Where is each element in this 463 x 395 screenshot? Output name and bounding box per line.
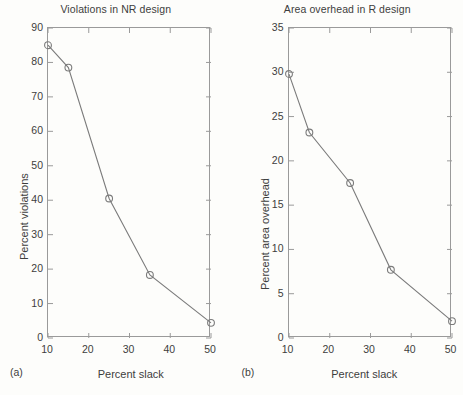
y-tick-label: 60 — [11, 124, 43, 136]
data-point-marker — [208, 319, 215, 326]
y-tick-label: 30 — [11, 228, 43, 240]
data-point-marker — [285, 71, 292, 78]
figure-container: Violations in NR design Percent violatio… — [0, 0, 463, 395]
x-tick-label: 10 — [41, 343, 53, 355]
y-tick-label: 5 — [252, 287, 284, 299]
chart-title-b: Area overhead in R design — [232, 3, 463, 15]
y-tick-label: 35 — [252, 21, 284, 33]
chart-panel-a: Violations in NR design Percent violatio… — [0, 0, 232, 395]
y-axis-label-a: Percent violations — [18, 173, 30, 260]
x-axis-label-b: Percent slack — [232, 368, 463, 380]
y-tick-label: 80 — [11, 55, 43, 67]
y-tick-label: 20 — [252, 154, 284, 166]
x-tick-label: 30 — [123, 343, 135, 355]
plot-svg-b — [289, 28, 452, 338]
plot-area-b — [288, 27, 451, 337]
y-tick-label: 15 — [252, 198, 284, 210]
x-tick-label: 20 — [322, 343, 334, 355]
y-tick-label: 90 — [11, 21, 43, 33]
y-tick-label: 70 — [11, 90, 43, 102]
y-tick-label: 0 — [11, 331, 43, 343]
x-tick-label: 40 — [404, 343, 416, 355]
x-axis-label-a: Percent slack — [0, 368, 232, 380]
y-tick-label: 40 — [11, 193, 43, 205]
y-tick-label: 10 — [252, 242, 284, 254]
y-tick-label: 0 — [252, 331, 284, 343]
plot-svg-a — [48, 28, 211, 338]
y-tick-label: 25 — [252, 110, 284, 122]
data-series-line — [289, 74, 452, 321]
chart-title-a: Violations in NR design — [0, 3, 232, 15]
y-axis-label-b: Percent area overhead — [259, 178, 271, 290]
data-series-line — [48, 45, 211, 323]
x-tick-label: 50 — [204, 343, 216, 355]
y-tick-label: 10 — [11, 297, 43, 309]
subplot-label-b: (b) — [242, 366, 255, 378]
y-tick-label: 20 — [11, 262, 43, 274]
x-tick-label: 50 — [445, 343, 457, 355]
subplot-label-a: (a) — [10, 366, 23, 378]
x-tick-label: 30 — [363, 343, 375, 355]
chart-panel-b: Area overhead in R design Percent area o… — [232, 0, 463, 395]
data-point-marker — [448, 318, 455, 325]
y-tick-label: 50 — [11, 159, 43, 171]
plot-area-a — [47, 27, 210, 337]
y-tick-label: 30 — [252, 65, 284, 77]
x-tick-label: 40 — [163, 343, 175, 355]
x-tick-label: 20 — [82, 343, 94, 355]
x-tick-label: 10 — [282, 343, 294, 355]
